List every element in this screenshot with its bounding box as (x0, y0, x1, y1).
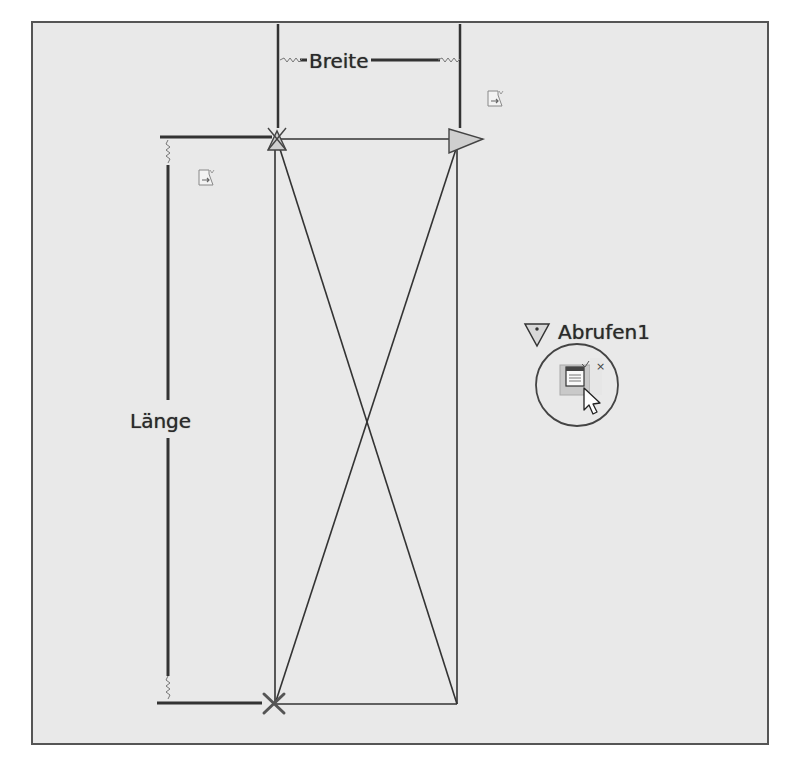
parameter-set-button-left[interactable] (197, 168, 215, 186)
lookup-grip-top-left[interactable] (266, 127, 288, 153)
length-parameter-label[interactable]: Länge (130, 409, 191, 433)
width-dimension (278, 24, 460, 128)
lookup-action-marker-button[interactable] (523, 322, 551, 348)
action-bar-close-button[interactable] (594, 360, 604, 372)
width-parameter-label[interactable]: Breite (307, 51, 371, 71)
parameter-set-button-top[interactable] (486, 89, 504, 107)
lookup-action-label[interactable]: Abrufen1 (558, 322, 650, 342)
length-grip-bottom[interactable] (262, 692, 286, 716)
rectangle (275, 139, 457, 704)
width-grip-arrow[interactable] (447, 127, 485, 155)
block-geometry: × (0, 0, 787, 766)
lookup-table-button[interactable] (560, 365, 590, 395)
